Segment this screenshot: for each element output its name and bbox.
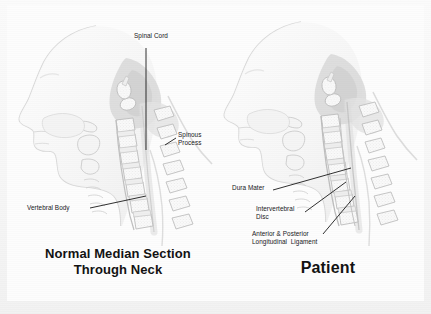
label-spinous-process-line1: Spinous [178,131,201,138]
anatomy-illustration-patient [205,0,431,250]
caption-normal-line1: Normal Median Section [45,246,191,261]
anatomy-illustration-normal [0,0,215,250]
label-dura-mater: Dura Mater [232,184,264,192]
slide-canvas: Spinal Cord SpinousProcess Vertebral Bod… [0,0,431,314]
label-longitudinal-ligament-line2: Longitudinal Ligament [252,238,317,245]
label-spinal-cord: Spinal Cord [134,32,168,40]
panel-normal-median-section: Spinal Cord SpinousProcess Vertebral Bod… [0,0,215,250]
label-spinous-process-line2: Process [178,139,201,146]
label-intervertebral-disc-line2: Disc [256,213,269,220]
label-spinous-process: SpinousProcess [178,131,201,146]
caption-normal-line2: Through Neck [74,262,163,277]
panel-patient: Dura Mater IntervertebralDisc Anterior &… [205,0,431,250]
label-vertebral-body: Vertebral Body [27,204,70,212]
label-intervertebral-disc: IntervertebralDisc [256,205,294,220]
label-intervertebral-disc-line1: Intervertebral [256,205,294,212]
caption-normal-median-section: Normal Median SectionThrough Neck [18,246,218,277]
label-longitudinal-ligament: Anterior & PosteriorLongitudinal Ligamen… [252,230,317,245]
label-longitudinal-ligament-line1: Anterior & Posterior [252,230,309,237]
caption-patient: Patient [243,259,413,277]
